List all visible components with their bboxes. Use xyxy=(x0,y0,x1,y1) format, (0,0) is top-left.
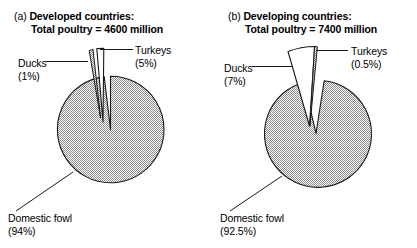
callout-domestic-fowl-percent: (92.5%) xyxy=(220,225,284,238)
slice-domestic-fowl xyxy=(57,76,164,183)
callout-domestic-fowl: Domestic fowl (94%) xyxy=(8,212,72,237)
leader-line-domestic-fowl xyxy=(16,172,73,211)
callout-turkeys-percent: (0.5%) xyxy=(351,58,387,71)
panel-b-pie-chart xyxy=(208,0,417,248)
slice-domestic-fowl xyxy=(264,81,371,188)
callout-domestic-fowl-percent: (94%) xyxy=(8,225,72,238)
callout-turkeys-name: Turkeys xyxy=(351,45,387,58)
callout-ducks-percent: (1%) xyxy=(18,70,47,83)
panel-developing-countries: (b) Developing countries: Total poultry … xyxy=(208,0,417,248)
callout-ducks-percent: (7%) xyxy=(224,75,253,88)
poultry-pie-figure: (a) Developed countries: Total poultry =… xyxy=(0,0,417,248)
leader-line-domestic-fowl xyxy=(230,176,282,211)
callout-ducks-name: Ducks xyxy=(224,62,253,75)
panel-a-pie-chart xyxy=(0,0,209,248)
callout-turkeys-name: Turkeys xyxy=(135,44,171,57)
panel-developed-countries: (a) Developed countries: Total poultry =… xyxy=(0,0,209,248)
callout-domestic-fowl-name: Domestic fowl xyxy=(220,212,284,225)
callout-turkeys: Turkeys (0.5%) xyxy=(351,45,387,70)
callout-ducks: Ducks (1%) xyxy=(18,57,47,82)
callout-turkeys-percent: (5%) xyxy=(135,57,171,70)
callout-turkeys: Turkeys (5%) xyxy=(135,44,171,69)
callout-domestic-fowl: Domestic fowl (92.5%) xyxy=(220,212,284,237)
callout-domestic-fowl-name: Domestic fowl xyxy=(8,212,72,225)
callout-ducks-name: Ducks xyxy=(18,57,47,70)
callout-ducks: Ducks (7%) xyxy=(224,62,253,87)
